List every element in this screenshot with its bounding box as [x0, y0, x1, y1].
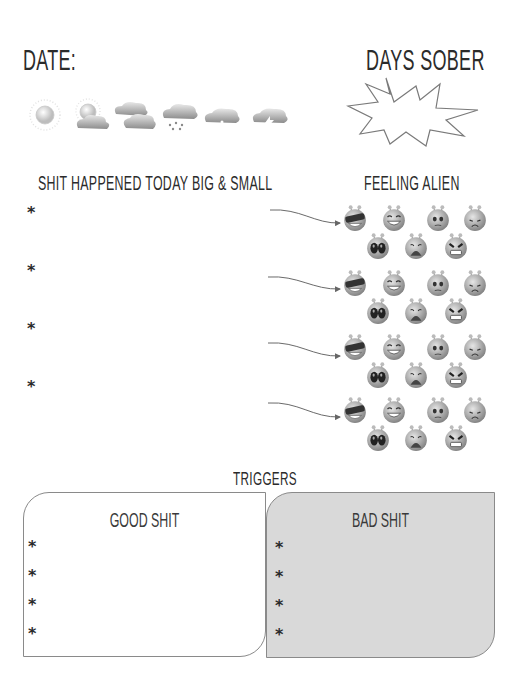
arrow-icon [268, 277, 340, 289]
good-triggers-title: Good shit [70, 509, 219, 532]
scared-alien-icon[interactable] [365, 362, 389, 386]
cool-alien-icon[interactable] [342, 334, 366, 358]
feeling-title: Feeling alien [364, 172, 460, 195]
bad-triggers-title: Bad Shit [310, 509, 451, 532]
laughing-alien-icon[interactable] [381, 397, 405, 421]
crying-alien-icon[interactable] [403, 233, 427, 257]
triggers-title: Triggers [233, 468, 297, 490]
angry-alien-icon[interactable] [443, 233, 467, 257]
sad-alien-icon[interactable] [462, 205, 486, 229]
laughing-alien-icon[interactable] [381, 334, 405, 358]
cool-alien-icon[interactable] [342, 205, 366, 229]
worried-alien-icon[interactable] [425, 397, 449, 421]
crying-alien-icon[interactable] [403, 298, 427, 322]
arrow-icon [268, 403, 340, 417]
arrow-icon [268, 343, 340, 356]
cool-alien-icon[interactable] [342, 397, 366, 421]
cool-alien-icon[interactable] [342, 270, 366, 294]
bad-bullet-1[interactable]: * [275, 540, 283, 556]
crying-alien-icon[interactable] [403, 362, 427, 386]
feeling-group-2 [340, 270, 500, 332]
laughing-alien-icon[interactable] [381, 205, 405, 229]
angry-alien-icon[interactable] [443, 362, 467, 386]
good-bullet-1[interactable]: * [28, 539, 36, 555]
feeling-group-3 [340, 334, 500, 396]
arrow-icon [270, 210, 340, 223]
angry-alien-icon[interactable] [443, 298, 467, 322]
sad-alien-icon[interactable] [462, 397, 486, 421]
crying-alien-icon[interactable] [403, 425, 427, 449]
worried-alien-icon[interactable] [425, 205, 449, 229]
worried-alien-icon[interactable] [425, 270, 449, 294]
good-bullet-3[interactable]: * [28, 597, 36, 613]
bad-bullet-2[interactable]: * [275, 569, 283, 585]
good-triggers-box[interactable]: Good shit * * * * [23, 492, 266, 657]
scared-alien-icon[interactable] [365, 425, 389, 449]
laughing-alien-icon[interactable] [381, 270, 405, 294]
scared-alien-icon[interactable] [365, 233, 389, 257]
bad-triggers-box[interactable]: Bad Shit * * * * [266, 492, 495, 658]
angry-alien-icon[interactable] [443, 425, 467, 449]
feeling-group-1 [340, 205, 500, 267]
bad-bullet-3[interactable]: * [275, 598, 283, 614]
bad-bullet-4[interactable]: * [275, 627, 283, 643]
sad-alien-icon[interactable] [462, 270, 486, 294]
feeling-group-4 [340, 397, 500, 459]
sad-alien-icon[interactable] [462, 334, 486, 358]
good-bullet-4[interactable]: * [28, 626, 36, 642]
good-bullet-2[interactable]: * [28, 568, 36, 584]
scared-alien-icon[interactable] [365, 298, 389, 322]
worried-alien-icon[interactable] [425, 334, 449, 358]
